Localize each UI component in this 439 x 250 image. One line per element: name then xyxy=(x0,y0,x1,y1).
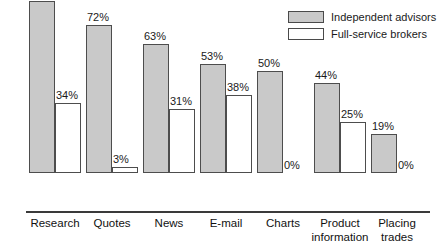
bar-value-label: 53% xyxy=(201,50,223,62)
bar-group: 19%0% xyxy=(371,1,423,173)
bar-value-label: 44% xyxy=(315,69,337,81)
bar-full-service-brokers[interactable] xyxy=(226,95,252,173)
bar-group: 53%38% xyxy=(200,1,252,173)
bar-independent-advisors[interactable] xyxy=(371,134,397,173)
bar-independent-advisors[interactable] xyxy=(143,44,169,173)
bar-slot: 31% xyxy=(169,1,195,173)
bar-value-label: 34% xyxy=(56,89,78,101)
bar-independent-advisors[interactable] xyxy=(314,83,340,173)
bar-slot: 19% xyxy=(371,1,397,173)
bar-value-label: 0% xyxy=(398,159,414,171)
x-axis-labels: ResearchQuotesNewsE-mailChartsProduct in… xyxy=(0,216,439,250)
bar-value-label: 31% xyxy=(170,95,192,107)
bar-full-service-brokers[interactable] xyxy=(340,122,366,173)
plot-area: 91%34%72%3%63%31%53%38%50%0%44%25%19%0% xyxy=(0,0,439,212)
bar-full-service-brokers[interactable] xyxy=(112,167,138,173)
bar-independent-advisors[interactable] xyxy=(29,1,55,173)
bar-value-label: 3% xyxy=(113,153,129,165)
bar-slot: 91% xyxy=(29,1,55,173)
bar-slot: 25% xyxy=(340,1,366,173)
bar-value-label: 0% xyxy=(284,159,300,171)
bar-chart: Independent advisors Full-service broker… xyxy=(0,0,439,250)
bar-value-label: 72% xyxy=(87,11,109,23)
bar-independent-advisors[interactable] xyxy=(86,25,112,173)
x-axis-line xyxy=(26,211,430,213)
bar-slot: 3% xyxy=(112,1,138,173)
bar-value-label: 19% xyxy=(372,120,394,132)
bar-slot: 72% xyxy=(86,1,112,173)
bar-value-label: 25% xyxy=(341,108,363,120)
bar-value-label: 38% xyxy=(227,81,249,93)
bar-value-label: 50% xyxy=(258,57,280,69)
bar-group: 44%25% xyxy=(314,1,366,173)
bar-slot: 44% xyxy=(314,1,340,173)
bar-group: 72%3% xyxy=(86,1,138,173)
bar-group: 91%34% xyxy=(29,1,81,173)
bar-slot: 0% xyxy=(397,1,423,173)
bar-slot: 63% xyxy=(143,1,169,173)
x-axis-label: Placing trades xyxy=(357,216,437,244)
bar-full-service-brokers[interactable] xyxy=(55,103,81,173)
bar-slot: 50% xyxy=(257,1,283,173)
bar-group: 50%0% xyxy=(257,1,309,173)
bar-slot: 38% xyxy=(226,1,252,173)
bar-slot: 34% xyxy=(55,1,81,173)
bar-slot: 53% xyxy=(200,1,226,173)
bar-value-label: 63% xyxy=(144,30,166,42)
bar-group: 63%31% xyxy=(143,1,195,173)
bar-slot: 0% xyxy=(283,1,309,173)
bar-independent-advisors[interactable] xyxy=(200,64,226,173)
bar-independent-advisors[interactable] xyxy=(257,71,283,173)
bar-full-service-brokers[interactable] xyxy=(169,109,195,173)
